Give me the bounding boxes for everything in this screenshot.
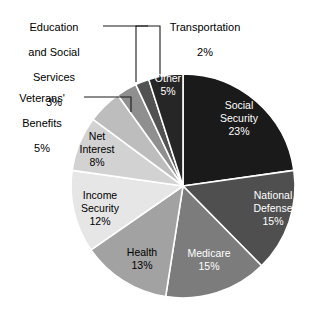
slice-label-national-defense-pct: 15% bbox=[262, 215, 283, 227]
slice-label-medicare-line1: Medicare bbox=[187, 247, 230, 259]
slice-label-income-security-line2: Security bbox=[81, 202, 120, 214]
slice-label-income-security-line1: Income bbox=[83, 189, 118, 201]
callout-transportation-line1: Transportation bbox=[170, 21, 241, 33]
pie-slices bbox=[71, 74, 295, 298]
slice-label-net-interest-line2: Interest bbox=[79, 143, 114, 155]
callout-veterans-benefits: Veterans' Benefits 5% bbox=[2, 80, 82, 167]
slice-label-other-line1: Other bbox=[155, 72, 182, 84]
callout-education-line2: and Social bbox=[28, 46, 79, 58]
slice-label-health-pct: 13% bbox=[131, 259, 152, 271]
slice-label-national-defense-line1: National bbox=[254, 189, 293, 201]
callout-transportation-pct: 2% bbox=[150, 46, 260, 58]
callout-transportation: Transportation 2% bbox=[150, 9, 260, 71]
slice-label-national-defense-line2: Defense bbox=[253, 202, 292, 214]
slice-label-social-security-line2: Security bbox=[220, 112, 259, 124]
leader-line-transportation bbox=[136, 26, 148, 82]
slice-label-medicare-pct: 15% bbox=[198, 260, 219, 272]
slice-label-health-line1: Health bbox=[127, 246, 158, 258]
slice-label-net-interest-line1: Net bbox=[89, 130, 105, 142]
pie-chart: Social Security 23% National Defense 15%… bbox=[0, 0, 332, 321]
callout-education-line1: Education bbox=[30, 21, 79, 33]
slice-label-other-pct: 5% bbox=[160, 85, 175, 97]
callout-veterans-line1: Veterans' bbox=[19, 92, 65, 104]
slice-label-income-security-pct: 12% bbox=[89, 215, 110, 227]
slice-label-social-security-pct: 23% bbox=[228, 125, 249, 137]
slice-label-social-security-line1: Social bbox=[225, 99, 254, 111]
callout-veterans-line2: Benefits bbox=[22, 117, 62, 129]
slice-label-net-interest-pct: 8% bbox=[89, 156, 104, 168]
callout-veterans-pct: 5% bbox=[2, 142, 82, 154]
